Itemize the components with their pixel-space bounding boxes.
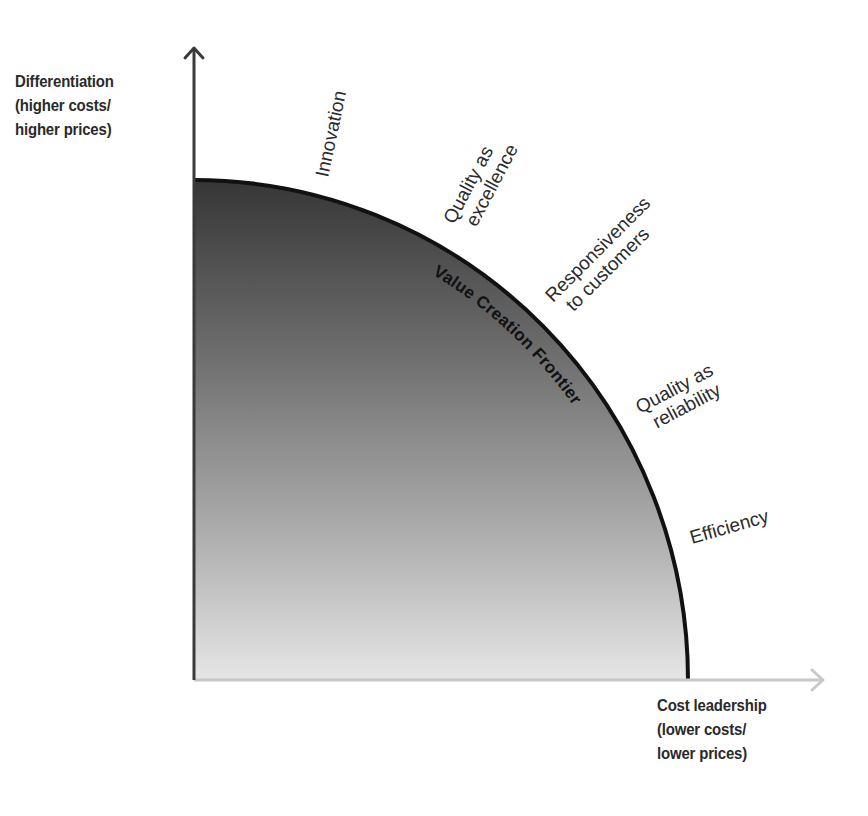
driver-quality-reliability: Quality as reliability — [632, 359, 726, 436]
y-axis-title-line2: (higher costs/ — [15, 94, 114, 118]
driver-label: Innovation — [311, 89, 350, 179]
driver-label: Efficiency — [687, 505, 771, 548]
driver-innovation: Innovation — [311, 89, 350, 179]
x-axis-title-line3: lower prices) — [657, 742, 767, 766]
y-axis-title-line1: Differentiation — [15, 70, 114, 94]
y-axis-title-line3: higher prices) — [15, 118, 114, 142]
x-axis-title-line2: (lower costs/ — [657, 718, 767, 742]
driver-efficiency: Efficiency — [687, 505, 771, 548]
x-axis-title: Cost leadership (lower costs/ lower pric… — [657, 694, 767, 766]
x-axis-title-line1: Cost leadership — [657, 694, 767, 718]
y-axis-title: Differentiation (higher costs/ higher pr… — [15, 70, 114, 142]
driver-quality-excellence: Quality as excellence — [439, 131, 522, 237]
driver-responsiveness: Responsiveness to customers — [541, 192, 669, 320]
